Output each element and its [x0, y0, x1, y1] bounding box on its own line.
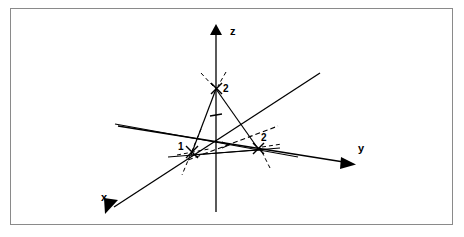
- axis-z-arrowhead: [210, 24, 222, 35]
- axis-x-line: [114, 73, 320, 207]
- figure-page: z y x: [0, 0, 464, 237]
- point-2-right-dashed-diagonal: [262, 152, 270, 168]
- axis-y-label: y: [358, 142, 365, 154]
- point-1-label: 1: [178, 141, 184, 152]
- axis-x: x: [101, 73, 320, 214]
- point-2-top-label: 2: [223, 83, 229, 94]
- figure-svg: z y x: [0, 0, 464, 237]
- triangle-edge-top-to-p2: [216, 89, 259, 150]
- axis-y-arrowhead: [340, 157, 356, 169]
- axis-y-line: [118, 126, 350, 163]
- axis-y: y: [118, 126, 365, 169]
- point-2-right-label: 2: [261, 132, 267, 143]
- triangle-shape: [191, 89, 259, 155]
- axis-z: z: [210, 24, 236, 212]
- point-2-right-dashed-horizontal: [262, 144, 282, 147]
- point-marker-2-top: 2: [201, 72, 229, 94]
- point-2-top-dashed-a: [201, 73, 213, 86]
- axis-z-label: z: [230, 25, 236, 37]
- axis-x-label: x: [101, 191, 108, 203]
